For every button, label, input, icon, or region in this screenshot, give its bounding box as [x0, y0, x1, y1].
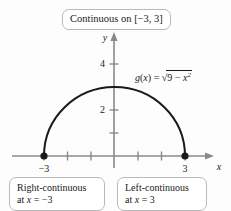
- y-axis-label: y: [102, 32, 108, 43]
- y-tick-label-2: 2: [100, 104, 105, 115]
- right-callout-prefix: at: [125, 194, 135, 205]
- right-callout-line1: Left-continuous: [125, 182, 202, 194]
- right-callout-line2: at x = 3: [125, 194, 202, 206]
- y-axis-arrowhead: [110, 32, 117, 41]
- function-annotation: g(x) = √9 − x2: [135, 70, 192, 83]
- left-callout-line1: Right-continuous: [17, 182, 100, 194]
- radicand-exponent: 2: [187, 71, 191, 79]
- right-callout: Left-continuous at x = 3: [117, 177, 207, 211]
- figure-container: −3 3 2 4 x y g(x) = √9 − x2 Continuous o…: [0, 0, 231, 211]
- left-callout: Right-continuous at x = −3: [9, 177, 105, 211]
- right-callout-value: = 3: [139, 194, 155, 205]
- function-equals: =: [151, 72, 162, 83]
- left-callout-line2: at x = −3: [17, 194, 100, 206]
- endpoint-dot-right: [181, 152, 188, 159]
- left-callout-prefix: at: [17, 194, 27, 205]
- title-callout: Continuous on [−3, 3]: [62, 9, 171, 30]
- x-axis-label: x: [216, 161, 222, 172]
- radicand-lead: 9 −: [167, 72, 183, 83]
- x-tick-label--3: −3: [39, 163, 50, 174]
- endpoint-dot-left: [40, 152, 47, 159]
- x-axis-arrowhead: [205, 152, 214, 159]
- y-tick-label-4: 4: [100, 58, 105, 69]
- x-tick-label-3: 3: [183, 163, 188, 174]
- left-callout-value: = −3: [31, 194, 52, 205]
- radical-sign: √9 − x2: [162, 70, 192, 83]
